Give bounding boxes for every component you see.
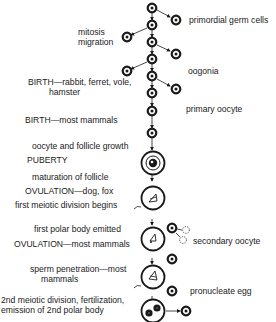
label-ovulation-dog-fox: OVULATION—dog, fox xyxy=(25,186,113,196)
oocyte-meiosis-1 xyxy=(134,187,165,210)
label-birth-early: BIRTH—rabbit, ferret, vole, xyxy=(28,77,131,87)
label-mitosis: mitosis xyxy=(78,27,105,37)
label-migration: migration xyxy=(78,37,113,47)
label-pronucleate-egg: pronucleate egg xyxy=(190,286,252,296)
label-second-meiotic: 2nd meiotic division, fertilization, xyxy=(1,295,124,305)
pronucleate-egg xyxy=(142,300,165,322)
label-secondary-oocyte: secondary oocyte xyxy=(193,236,260,246)
oocyte-first-polar-body xyxy=(142,228,165,251)
label-ovulation-most: OVULATION—most mammals xyxy=(14,239,130,249)
label-growth: oocyte and follicle growth xyxy=(32,141,129,151)
label-birth-most: BIRTH—most mammals xyxy=(25,115,117,125)
label-second-meiotic-2: emission of 2nd polar body xyxy=(1,305,104,315)
label-first-meiotic: first meiotic division begins xyxy=(15,200,117,210)
label-primary-oocyte: primary oocyte xyxy=(186,104,242,114)
label-puberty: PUBERTY xyxy=(27,155,67,165)
follicle-cell xyxy=(142,152,165,175)
label-primordial-germ-cells: primordial germ cells xyxy=(189,15,268,25)
label-maturation: maturation of follicle xyxy=(32,172,108,182)
label-oogonia: oogonia xyxy=(188,66,219,76)
label-first-polar: first polar body emitted xyxy=(34,224,121,234)
label-birth-early-2: hamster xyxy=(49,87,80,97)
oocyte-sperm-penetration xyxy=(134,266,165,289)
label-sperm-penetration-2: mammals xyxy=(41,274,78,284)
label-sperm-penetration: sperm penetration—most xyxy=(30,264,126,274)
